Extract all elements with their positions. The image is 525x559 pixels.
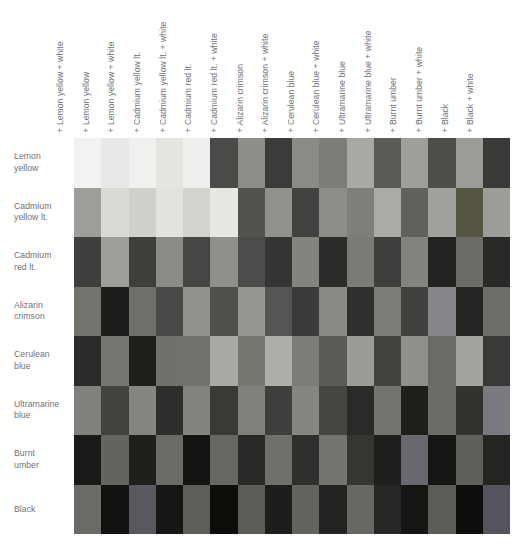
color-swatch	[292, 386, 319, 436]
row-label-line: umber	[14, 460, 74, 471]
column-header: + Cadmium yellow lt.	[125, 4, 151, 134]
color-swatch	[292, 336, 319, 386]
color-swatch	[347, 485, 374, 535]
row-label: Burntumber	[14, 448, 74, 471]
color-swatch	[483, 386, 510, 436]
color-swatch	[319, 237, 346, 287]
color-swatch	[183, 138, 210, 188]
color-swatch	[156, 287, 183, 337]
column-header: + Lemon yellow + white	[100, 4, 126, 134]
row-label-line: Cadmium	[14, 250, 74, 261]
color-swatch	[156, 485, 183, 535]
color-swatch	[428, 336, 455, 386]
color-swatch	[374, 485, 401, 535]
color-swatch	[428, 287, 455, 337]
color-swatch	[456, 237, 483, 287]
color-swatch	[319, 336, 346, 386]
column-header: + Cadmium yellow lt. + white	[151, 4, 177, 134]
row-label-line: Cadmium	[14, 201, 74, 212]
color-swatch	[156, 237, 183, 287]
color-swatch	[456, 485, 483, 535]
row-label-column: LemonyellowCadmiumyellow lt.Cadmiumred l…	[0, 138, 74, 534]
color-swatch	[401, 237, 428, 287]
color-swatch	[74, 138, 101, 188]
color-swatch	[101, 138, 128, 188]
color-swatch	[238, 386, 265, 436]
color-swatch	[238, 485, 265, 535]
color-swatch	[319, 287, 346, 337]
color-swatch	[456, 138, 483, 188]
color-swatch	[292, 188, 319, 238]
color-swatch	[183, 188, 210, 238]
row-label-line: Black	[14, 504, 74, 515]
color-swatch	[428, 386, 455, 436]
column-header: + Ultramarine blue + white	[356, 4, 382, 134]
color-swatch	[347, 138, 374, 188]
color-swatch	[210, 485, 237, 535]
color-swatch	[265, 237, 292, 287]
row-label-line: Lemon	[14, 151, 74, 162]
row-label-line: Burnt	[14, 448, 74, 459]
row-label: Black	[14, 504, 74, 515]
color-swatch	[347, 188, 374, 238]
color-swatch	[401, 485, 428, 535]
color-swatch	[129, 138, 156, 188]
color-swatch	[129, 237, 156, 287]
color-swatch	[292, 287, 319, 337]
color-swatch	[374, 386, 401, 436]
column-header: + Black + white	[459, 4, 485, 134]
color-swatch	[292, 237, 319, 287]
color-swatch	[292, 138, 319, 188]
color-swatch	[74, 237, 101, 287]
color-swatch	[456, 386, 483, 436]
color-swatch	[74, 336, 101, 386]
column-header: + Cadmium red lt.	[177, 4, 203, 134]
color-swatch	[238, 237, 265, 287]
color-swatch	[101, 435, 128, 485]
color-swatch	[319, 386, 346, 436]
color-swatch	[374, 287, 401, 337]
color-swatch	[238, 287, 265, 337]
color-swatch	[265, 485, 292, 535]
row-label-line: blue	[14, 410, 74, 421]
color-swatch	[292, 485, 319, 535]
color-swatch	[374, 138, 401, 188]
color-swatch	[129, 336, 156, 386]
color-swatch	[265, 138, 292, 188]
color-swatch	[74, 485, 101, 535]
color-swatch	[319, 485, 346, 535]
row-label-line: Ultramarine	[14, 399, 74, 410]
color-swatch	[347, 336, 374, 386]
color-swatch	[210, 336, 237, 386]
color-swatch	[74, 435, 101, 485]
color-swatch	[210, 435, 237, 485]
color-swatch	[483, 485, 510, 535]
color-swatch	[456, 435, 483, 485]
color-swatch	[401, 287, 428, 337]
color-swatch	[319, 435, 346, 485]
color-swatch	[101, 237, 128, 287]
row-label-line: crimson	[14, 311, 74, 322]
color-swatch	[401, 336, 428, 386]
color-swatch	[210, 188, 237, 238]
color-swatch	[129, 188, 156, 238]
color-swatch	[156, 386, 183, 436]
color-swatch	[265, 386, 292, 436]
color-swatch	[210, 287, 237, 337]
color-swatch	[292, 435, 319, 485]
column-header: + Cadmium red lt. + white	[202, 4, 228, 134]
color-mixing-chart: + Lemon yellow + white+ Lemon yellow+ Le…	[0, 0, 525, 559]
color-swatch	[156, 336, 183, 386]
color-swatch	[238, 336, 265, 386]
column-header: + Cerulean blue + white	[305, 4, 331, 134]
color-swatch	[238, 188, 265, 238]
column-header: + Cerulean blue	[279, 4, 305, 134]
color-swatch	[101, 336, 128, 386]
color-swatch	[319, 188, 346, 238]
color-swatch	[374, 435, 401, 485]
row-label-line: Alizarin	[14, 300, 74, 311]
color-swatch	[74, 188, 101, 238]
color-swatch	[210, 386, 237, 436]
color-swatch	[401, 138, 428, 188]
color-swatch	[183, 287, 210, 337]
